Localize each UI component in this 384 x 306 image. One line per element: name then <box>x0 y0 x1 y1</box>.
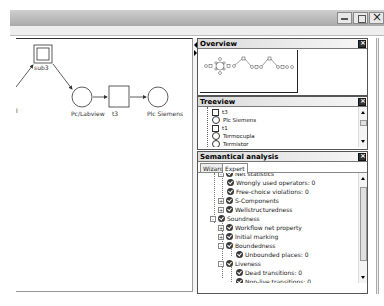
net-graph <box>16 39 193 293</box>
treeview-header: Treeview <box>198 97 367 107</box>
transition-t3 <box>109 86 129 107</box>
tree-node-soundness[interactable]: - Soundness <box>210 214 260 223</box>
check-icon <box>227 188 234 195</box>
label-pc-labview: Pc/Labview <box>71 110 105 117</box>
collapse-icon[interactable]: - <box>218 243 224 249</box>
semantical-analysis-title: Semantical analysis <box>200 153 278 161</box>
overview-body <box>198 49 367 94</box>
check-icon <box>226 197 233 204</box>
scroll-up-icon[interactable] <box>361 177 365 180</box>
tree-node-wrongly-used-operators[interactable]: Wrongly used operators: 0 <box>227 178 315 187</box>
tree-node-wellstructuredness[interactable]: + Wellstructuredness <box>218 205 292 214</box>
app-window: sub3 Pc/Labview t3 Plc Siemens l Overvie… <box>0 0 384 306</box>
check-icon <box>226 260 233 267</box>
collapse-icon[interactable]: - <box>218 173 224 177</box>
treeview-panel: Treeview t3 Plc Siemens t1 Termocupla <box>197 96 368 150</box>
place-icon <box>212 140 220 147</box>
tree-node-non-live-transitions[interactable]: Non-live transitions: 0 <box>236 277 311 283</box>
label-partial: l <box>16 107 18 114</box>
treeview-close-button[interactable] <box>358 98 366 106</box>
tree-item-t3[interactable]: t3 <box>212 108 228 116</box>
check-icon <box>236 269 243 276</box>
check-icon <box>226 206 233 213</box>
scroll-up-icon[interactable] <box>361 111 365 114</box>
overview-panel: Overview <box>197 38 368 96</box>
label-sub3: sub3 <box>34 64 49 71</box>
check-icon <box>236 251 243 258</box>
expand-icon[interactable]: + <box>218 198 224 204</box>
transition-icon <box>212 109 219 116</box>
check-icon <box>226 233 233 240</box>
scroll-down-icon[interactable] <box>361 276 365 279</box>
title-bar <box>10 10 384 26</box>
treeview-title: Treeview <box>200 98 235 106</box>
semantical-analysis-header: Semantical analysis <box>198 152 367 162</box>
tree-node-free-choice-violations[interactable]: Free-choice violations: 0 <box>227 187 309 196</box>
check-icon <box>236 278 243 283</box>
semantical-analysis-close-button[interactable] <box>358 153 366 161</box>
tree-item-plc-siemens[interactable]: Plc Siemens <box>212 116 256 124</box>
window-controls <box>337 12 384 24</box>
analysis-tree: - Net statistics Wrongly used operators:… <box>198 173 367 283</box>
overview-thumbnail <box>200 50 298 93</box>
overview-viewport[interactable] <box>200 50 298 93</box>
maximize-button[interactable] <box>353 12 368 24</box>
semantical-analysis-panel: Semantical analysis Wizard Expert - Net … <box>197 151 368 294</box>
check-icon <box>218 215 225 222</box>
place-icon <box>212 116 220 124</box>
overview-header: Overview <box>198 39 367 49</box>
label-t3: t3 <box>112 110 118 117</box>
collapse-icon[interactable]: - <box>218 261 224 267</box>
check-icon <box>226 173 233 177</box>
tree-node-s-components[interactable]: + S-Components <box>218 196 279 205</box>
overview-title: Overview <box>200 40 237 48</box>
expand-icon[interactable]: + <box>218 225 224 231</box>
tree-item-t1[interactable]: t1 <box>212 124 228 132</box>
window-right-border <box>376 38 379 294</box>
treeview-scrollbar[interactable] <box>358 107 367 147</box>
place-icon <box>212 132 220 140</box>
tree-item-termistor[interactable]: Termistor <box>212 140 249 147</box>
overview-close-button[interactable] <box>358 40 366 48</box>
scroll-thumb[interactable] <box>360 120 367 126</box>
minimize-button[interactable] <box>337 12 352 24</box>
place-plc-siemens <box>148 87 168 107</box>
collapse-icon[interactable]: - <box>210 216 216 222</box>
tree-node-workflow-net-property[interactable]: + Workflow net property <box>218 223 302 232</box>
toolbar <box>10 26 384 36</box>
analysis-scrollbar[interactable] <box>358 173 367 283</box>
check-icon <box>227 179 234 186</box>
analysis-tabs: Wizard Expert <box>198 162 367 173</box>
scroll-down-icon[interactable] <box>361 140 365 143</box>
check-icon <box>226 224 233 231</box>
check-icon <box>226 242 233 249</box>
tree-node-initial-marking[interactable]: + Initial marking <box>218 232 278 241</box>
tree-node-unbounded-places[interactable]: Unbounded places: 0 <box>236 250 309 259</box>
transition-icon <box>212 125 219 132</box>
tree-node-boundedness[interactable]: - Boundedness <box>218 241 275 250</box>
place-pc-labview <box>72 87 92 107</box>
expand-icon[interactable]: + <box>218 234 224 240</box>
close-button[interactable] <box>369 12 384 24</box>
tree-node-liveness[interactable]: - Liveness <box>218 259 261 268</box>
treeview-list: t3 Plc Siemens t1 Termocupla Termistor <box>198 107 367 147</box>
petri-net-canvas[interactable]: sub3 Pc/Labview t3 Plc Siemens l <box>16 38 193 292</box>
label-plc-siemens: Plc Siemens <box>147 110 183 117</box>
tree-node-dead-transitions[interactable]: Dead transitions: 0 <box>236 268 302 277</box>
expand-icon[interactable]: + <box>218 207 224 213</box>
tree-item-termocupla[interactable]: Termocupla <box>212 132 255 140</box>
scroll-thumb[interactable] <box>360 187 367 261</box>
